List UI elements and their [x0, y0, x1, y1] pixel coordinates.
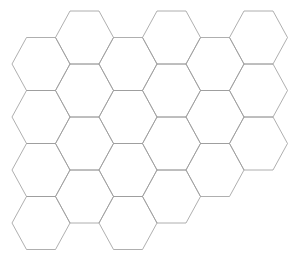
hex-cell-c2-r3[interactable]	[99, 197, 157, 250]
hex-cell-c5-r1[interactable]	[230, 64, 288, 117]
hex-cell-c2-r2[interactable]	[99, 144, 157, 197]
hex-cell-c1-r2[interactable]	[56, 117, 114, 170]
hex-cell-c2-r0[interactable]	[99, 38, 157, 91]
hex-grid-canvas	[0, 0, 301, 258]
hex-cell-c3-r3[interactable]	[143, 170, 201, 223]
hex-cell-c4-r1[interactable]	[186, 91, 244, 144]
hex-cell-c2-r1[interactable]	[99, 91, 157, 144]
hex-cell-c1-r0[interactable]	[56, 11, 114, 64]
hex-cell-c3-r2[interactable]	[143, 117, 201, 170]
hex-cell-c0-r1[interactable]	[12, 91, 70, 144]
hex-cell-c4-r0[interactable]	[186, 38, 244, 91]
hex-cell-c3-r0[interactable]	[143, 11, 201, 64]
hex-cell-c1-r3[interactable]	[56, 170, 114, 223]
hex-cell-c5-r0[interactable]	[230, 11, 288, 64]
hex-cell-c1-r1[interactable]	[56, 64, 114, 117]
hex-cell-c3-r1[interactable]	[143, 64, 201, 117]
hex-grid-svg	[0, 0, 301, 258]
hex-cell-c0-r2[interactable]	[12, 144, 70, 197]
hex-cell-c0-r3[interactable]	[12, 197, 70, 250]
hex-cell-c0-r0[interactable]	[12, 38, 70, 91]
hex-cell-c5-r2[interactable]	[230, 117, 288, 170]
hex-cell-c4-r2[interactable]	[186, 144, 244, 197]
